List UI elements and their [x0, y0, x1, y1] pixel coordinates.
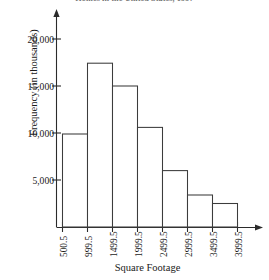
x-tick-label-6: 2999.5 [184, 231, 194, 257]
x-tick-label-8: 3999.5 [234, 231, 244, 257]
x-tick-label-2: 999.5 [84, 236, 94, 257]
x-tick-label-4: 1999.5 [134, 231, 144, 257]
x-axis-label: Square Footage [40, 262, 255, 273]
x-tick-label-7: 3499.5 [209, 231, 219, 257]
histogram-figure: Homes in the United States, 1997 [0, 0, 269, 280]
x-tick-label-5: 2499.5 [159, 231, 169, 257]
x-tick-label-1: 500.5 [59, 236, 69, 257]
x-axis-tick-labels: 500.5 999.5 1499.5 1999.5 2499.5 2999.5 … [0, 0, 269, 280]
x-tick-label-3: 1499.5 [109, 231, 119, 257]
